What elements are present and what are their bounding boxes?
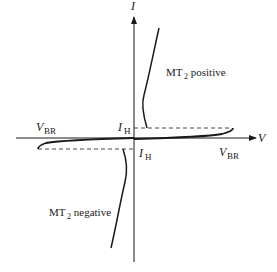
curve-mt2-negative-conduction	[111, 149, 126, 248]
svg-text:MT: MT	[49, 206, 66, 218]
curve-mt2-negative-blocking	[38, 138, 134, 149]
svg-text:I: I	[117, 120, 123, 134]
y-axis-label: I	[130, 0, 136, 13]
triac-characteristic-diagram: I V I H I H V BR V BR MT 2 positive MT 2…	[0, 0, 277, 272]
holding-current-label-lower: I H	[138, 146, 152, 162]
curve-mt2-positive-conduction	[143, 28, 159, 128]
breakover-voltage-label-left: V BR	[36, 120, 56, 136]
svg-text:negative: negative	[71, 206, 111, 218]
curve-mt2-positive-blocking	[134, 128, 233, 139]
svg-text:BR: BR	[227, 151, 239, 161]
breakover-voltage-label-right: V BR	[219, 145, 239, 161]
svg-text:MT: MT	[166, 66, 183, 78]
svg-text:I: I	[138, 146, 144, 160]
svg-text:H: H	[145, 152, 152, 162]
quadrant-label-mt2-negative: MT 2 negative	[49, 206, 111, 221]
x-axis-label: V	[258, 131, 267, 145]
svg-text:positive: positive	[188, 66, 226, 78]
holding-current-label-upper: I H	[117, 120, 131, 136]
quadrant-label-mt2-positive: MT 2 positive	[166, 66, 226, 81]
svg-text:BR: BR	[44, 126, 56, 136]
svg-text:H: H	[124, 126, 131, 136]
